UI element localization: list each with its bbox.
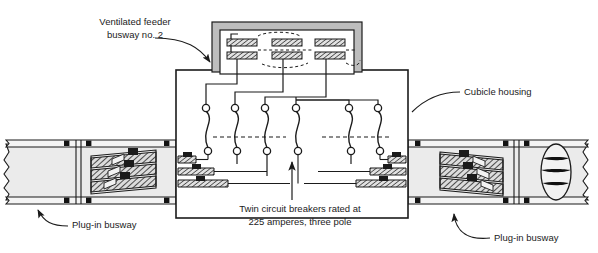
diagram-canvas: Ventilated feeder busway no. 2 Cubicle h… (0, 0, 598, 253)
label-twin-circuit-breakers-line1: Twin circuit breakers rated at (192, 203, 408, 216)
label-twin-circuit-breakers-line2: 225 amperes, three pole (192, 216, 408, 229)
leader-plugin-left-arrow (38, 210, 68, 226)
label-cubicle-housing: Cubicle housing (464, 86, 532, 99)
label-twin-circuit-breakers: Twin circuit breakers rated at 225 amper… (192, 203, 408, 228)
label-ventilated-feeder-busway-line1: Ventilated feeder (70, 16, 200, 29)
plug-in-busway-right (408, 140, 588, 204)
busway-end-section-right (541, 144, 571, 200)
feeder-busbars-row2 (227, 52, 345, 59)
label-ventilated-feeder-busway-line2: busway no. 2 (70, 29, 200, 42)
label-plug-in-busway-right: Plug-in busway (494, 232, 558, 245)
busbars-right (440, 150, 503, 196)
leader-cubicle-line (412, 92, 460, 112)
label-ventilated-feeder-busway: Ventilated feeder busway no. 2 (70, 16, 200, 41)
label-plug-in-busway-left: Plug-in busway (72, 219, 136, 232)
busbars-left (91, 148, 156, 194)
ventilated-feeder-busway (212, 22, 362, 78)
plug-in-busway-left (4, 140, 176, 204)
feeder-busbars-row1 (227, 39, 345, 46)
leader-feeder-arrow (155, 38, 210, 62)
leader-plugin-right-arrow (454, 214, 490, 238)
